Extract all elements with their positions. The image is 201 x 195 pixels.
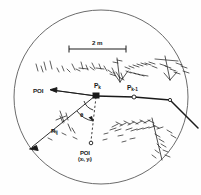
diagram-canvas xyxy=(0,0,201,195)
poi-left-arrow xyxy=(50,88,96,96)
label-poi-bottom-coords: (xᵢ, yᵢ) xyxy=(78,157,92,163)
label-range-vector-subscript: ij xyxy=(55,130,57,135)
traverse-line xyxy=(51,90,198,128)
label-poi-bottom: POI (xᵢ, yᵢ) xyxy=(78,150,92,163)
node-corner-marker xyxy=(168,98,171,101)
label-poi-left: POI xyxy=(33,88,43,95)
terrain-branch-lower xyxy=(152,118,162,160)
label-point-k-subscript: k xyxy=(98,85,100,90)
label-point-k-minus-1: Pk-1 xyxy=(127,85,138,92)
figure-root: POI Pk Pk-1 Rij θ POI (xᵢ, yᵢ) 2 m xyxy=(0,0,201,195)
node-pk1-marker xyxy=(132,95,136,99)
poi-bottom-marker xyxy=(89,141,93,145)
label-range-vector: Rij xyxy=(51,128,57,136)
label-point-k: Pk xyxy=(94,83,101,90)
terrain-hatching-lower xyxy=(48,113,176,158)
label-point-k-minus-1-subscript: k-1 xyxy=(131,87,137,92)
label-angle-theta: θ xyxy=(80,112,83,119)
label-scale-bar: 2 m xyxy=(92,40,102,47)
scale-bar xyxy=(69,46,126,53)
